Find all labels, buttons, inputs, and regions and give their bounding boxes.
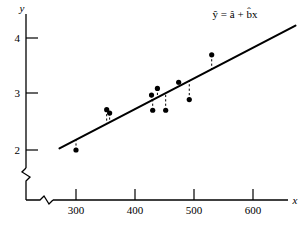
scatter-plot-figure: 4 3 2 300 400 500 600 y x ŷ = â + b̂x: [0, 0, 305, 233]
y-axis-label: y: [19, 2, 25, 14]
y-tick-label-3: 3: [15, 87, 21, 99]
x-tick-label-600: 600: [245, 204, 262, 216]
x-tick-label-300: 300: [68, 204, 85, 216]
data-point-marker: [107, 110, 112, 115]
x-axis-label: x: [292, 194, 298, 206]
y-tick-marks: [26, 38, 38, 150]
regression-scatter-chart: 4 3 2 300 400 500 600 y x ŷ = â + b̂x: [0, 0, 305, 233]
data-point-marker: [150, 108, 155, 113]
x-tick-marks: [76, 189, 253, 200]
y-tick-label-2: 2: [15, 144, 21, 156]
y-tick-labels: 4 3 2: [15, 32, 21, 156]
axes-group: [22, 14, 288, 204]
data-point-marker: [163, 108, 168, 113]
regression-equation-annotation: ŷ = â + b̂x: [213, 7, 258, 20]
x-tick-label-500: 500: [186, 204, 203, 216]
least-squares-regression-line: [59, 26, 295, 149]
x-tick-labels: 300 400 500 600: [68, 204, 262, 216]
data-point-marker: [73, 147, 78, 152]
y-axis-break-mark: [22, 168, 30, 200]
data-point-marker: [155, 86, 160, 91]
x-axis-break-mark: [26, 196, 53, 204]
residual-lines-group: [76, 55, 212, 150]
data-points-group: [73, 52, 214, 152]
data-point-marker: [149, 93, 154, 98]
data-point-marker: [187, 97, 192, 102]
x-tick-label-400: 400: [127, 204, 144, 216]
regression-equation-text: ŷ = â + b̂x: [213, 7, 258, 20]
y-tick-label-4: 4: [15, 32, 21, 44]
data-point-marker: [176, 80, 181, 85]
data-point-marker: [209, 52, 214, 57]
